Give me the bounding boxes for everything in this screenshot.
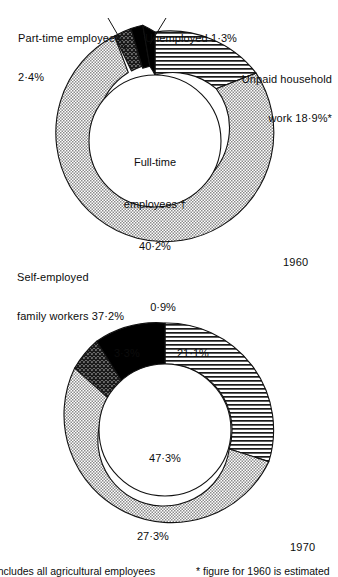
callout-part-time-line-2: 2·4% bbox=[18, 71, 178, 84]
year-label-1970: 1970 bbox=[290, 541, 315, 553]
center-1970-line-1: 47·3% bbox=[120, 451, 210, 465]
segment-label-1970-part-time: 3·3% bbox=[114, 347, 140, 359]
callout-unemployed-line-1: Unemployed 1·3% bbox=[145, 32, 285, 45]
footnote-dagger: † Includes all agricultural employees bbox=[0, 565, 155, 577]
callout-self-employed-line-1: Self-employed bbox=[17, 271, 197, 284]
year-label-1960: 1960 bbox=[283, 256, 308, 268]
segment-label-1970-self-employed: 27·3% bbox=[137, 530, 169, 542]
segment-label-1970-unpaid-household: 21·1% bbox=[177, 347, 209, 359]
center-line-1: Full-time bbox=[105, 155, 205, 169]
callout-1960-unpaid-household: Unpaid household work 18·9%* bbox=[168, 47, 332, 151]
callout-unpaid-line-2: work 18·9%* bbox=[168, 112, 332, 125]
callout-unpaid-line-1: Unpaid household bbox=[168, 73, 332, 86]
segment-label-1970-unemployed: 0·9% bbox=[118, 301, 208, 313]
center-line-2: employees † bbox=[105, 197, 205, 211]
footnote-asterisk: * figure for 1960 is estimated bbox=[196, 565, 330, 577]
donut-1970-center-label: 47·3% bbox=[120, 423, 210, 493]
